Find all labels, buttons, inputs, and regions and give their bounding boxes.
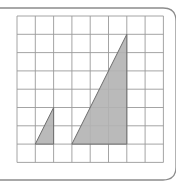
figure-frame: [0, 8, 176, 180]
grid-figure: [0, 0, 176, 186]
